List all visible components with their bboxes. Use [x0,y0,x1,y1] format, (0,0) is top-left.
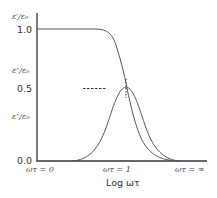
x-axis-title: Log ωτ [106,178,140,188]
y-tick-0-5: 0.5 [17,84,32,94]
x-tick-omega-tau-1: ωτ = 1 [103,166,131,174]
epsilon-double-prime-curve [72,87,180,161]
x-tick-omega-tau-inf: ωτ = ∞ [175,166,204,174]
dielectric-relaxation-chart: ε′/ε₀ 1.0 ε″/ε₀ 0.5 ε″/ε₀ 0.0 ωτ = 0 ωτ … [0,0,217,198]
y-label-epsilon-double-prime: ε″/ε₀ [12,113,29,121]
y-label-epsilon-prime: ε′/ε₀ [12,13,28,21]
y-tick-1-0: 1.0 [17,25,32,35]
y-label-epsilon-double-prime-mid: ε″/ε₀ [12,67,29,75]
epsilon-prime-curve [37,29,178,161]
x-tick-omega-tau-0: ωτ = 0 [26,166,54,174]
